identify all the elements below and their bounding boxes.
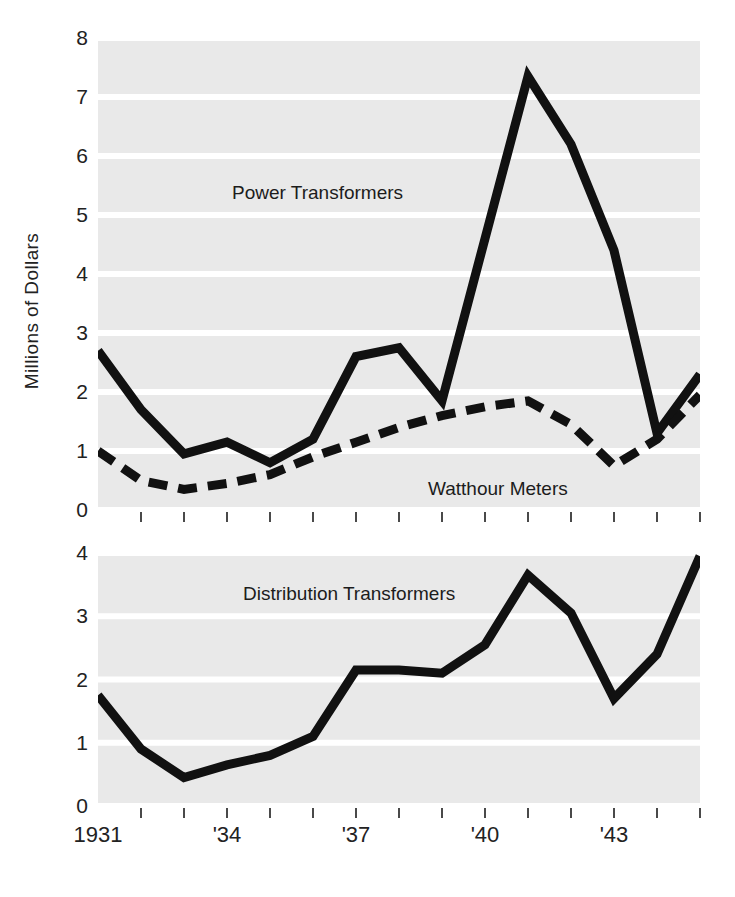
- y-tick-label: 3: [76, 321, 88, 345]
- x-tick-mark: [140, 808, 142, 818]
- x-axis-label: '34: [213, 822, 242, 848]
- y-tick-label: 2: [76, 668, 88, 692]
- x-tick-mark: [570, 808, 572, 818]
- x-tick-mark: [570, 512, 572, 522]
- x-tick-mark: [656, 512, 658, 522]
- power-transformers-plot: [98, 38, 700, 510]
- x-tick-mark: [312, 808, 314, 818]
- series-label-power-transformers: Power Transformers: [232, 182, 403, 204]
- grid-band: [98, 100, 700, 153]
- series-label-watthour-meters: Watthour Meters: [428, 478, 568, 500]
- x-axis-label: 1931: [74, 822, 123, 848]
- grid-band: [98, 41, 700, 94]
- x-tick-mark: [140, 512, 142, 522]
- x-tick-mark: [656, 808, 658, 818]
- y-axis-title: Millions of Dollars: [21, 201, 43, 421]
- x-tick-mark: [441, 512, 443, 522]
- y-tick-label: 8: [76, 26, 88, 50]
- x-axis-ticks-bottom: [98, 806, 700, 818]
- y-tick-label: 4: [76, 541, 88, 565]
- x-axis-label: '40: [471, 822, 500, 848]
- y-tick-label: 4: [76, 262, 88, 286]
- x-axis-label: '37: [342, 822, 371, 848]
- x-tick-mark: [355, 808, 357, 818]
- series-label-distribution-transformers: Distribution Transformers: [243, 583, 455, 605]
- y-tick-label: 0: [76, 794, 88, 818]
- x-tick-mark: [226, 808, 228, 818]
- x-tick-mark: [527, 808, 529, 818]
- x-tick-mark: [613, 512, 615, 522]
- x-tick-mark: [183, 512, 185, 522]
- x-tick-mark: [269, 808, 271, 818]
- x-tick-mark: [441, 808, 443, 818]
- x-axis-label: '43: [600, 822, 629, 848]
- y-tick-label: 1: [76, 439, 88, 463]
- x-tick-mark: [484, 808, 486, 818]
- x-tick-mark: [699, 808, 701, 818]
- y-tick-label: 2: [76, 380, 88, 404]
- y-tick-label: 5: [76, 203, 88, 227]
- grid-band: [98, 395, 700, 448]
- x-tick-mark: [398, 808, 400, 818]
- y-tick-label: 7: [76, 85, 88, 109]
- y-tick-label: 0: [76, 498, 88, 522]
- x-tick-mark: [183, 808, 185, 818]
- y-tick-label: 1: [76, 731, 88, 755]
- x-axis-ticks-top: [98, 510, 700, 522]
- x-tick-mark: [527, 512, 529, 522]
- x-tick-mark: [699, 512, 701, 522]
- x-tick-mark: [398, 512, 400, 522]
- x-tick-mark: [226, 512, 228, 522]
- x-tick-mark: [312, 512, 314, 522]
- y-tick-label: 6: [76, 144, 88, 168]
- chart-figure: Millions of Dollars 012345678 Power Tran…: [0, 0, 735, 897]
- x-tick-mark: [484, 512, 486, 522]
- chart-panel-top: 012345678: [98, 38, 700, 510]
- x-tick-mark: [355, 512, 357, 522]
- x-tick-mark: [269, 512, 271, 522]
- grid-band: [98, 277, 700, 330]
- x-tick-mark: [613, 808, 615, 818]
- y-tick-label: 3: [76, 604, 88, 628]
- x-axis-labels: 1931'34'37'40'43: [98, 822, 700, 854]
